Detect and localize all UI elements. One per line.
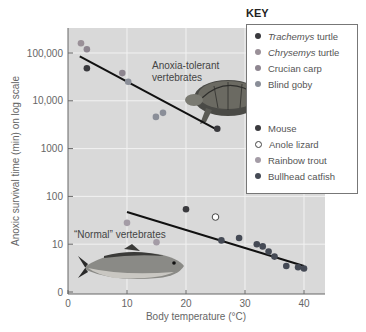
data-point: [153, 114, 160, 121]
x-tick-label: 0: [65, 298, 71, 309]
annotation-anoxia-tolerant-1: Anoxia-tolerant: [152, 60, 219, 71]
y-tick-label: 100,000: [27, 48, 64, 59]
legend-label: Anole lizard: [269, 139, 319, 150]
x-tick-label: 10: [121, 298, 133, 309]
legend-item: Blind goby: [255, 79, 312, 90]
y-axis-label: Anoxic survival time (min) on log scale: [10, 76, 21, 246]
y-tick-label: 10,000: [32, 95, 63, 106]
legend-label: turtle: [316, 47, 340, 58]
data-point: [265, 248, 272, 255]
legend-label-genus: Trachemys: [268, 31, 314, 42]
y-tick-label: 10: [52, 239, 64, 250]
y-tick-label: 100: [46, 191, 63, 202]
legend-label: Bullhead catfish: [268, 171, 335, 182]
data-point: [84, 46, 91, 53]
data-point: [259, 243, 266, 250]
y-tick-label: 1000: [41, 143, 64, 154]
legend-marker-icon: [255, 65, 261, 71]
legend-label: Crucian carp: [268, 63, 322, 74]
legend-label-genus: Chrysemys: [268, 47, 316, 58]
x-tick-label: 30: [239, 298, 251, 309]
data-point: [295, 264, 302, 271]
legend-item: Anole lizard: [255, 139, 319, 150]
data-point: [84, 65, 91, 72]
legend-item: Trachemys turtle: [255, 31, 338, 42]
legend-marker-icon: [255, 49, 261, 55]
legend-marker-icon: [255, 157, 261, 163]
annotation-normal: “Normal” vertebrates: [74, 229, 166, 240]
x-axis-label: Body temperature (°C): [146, 311, 246, 322]
data-point: [271, 253, 278, 260]
data-point: [301, 265, 308, 272]
legend: Trachemys turtleChrysemys turtleCrucian …: [246, 24, 358, 194]
legend-label: turtle: [314, 31, 338, 42]
data-point: [78, 40, 85, 47]
data-point: [283, 263, 290, 270]
annotation-anoxia-tolerant-2: vertebrates: [152, 72, 202, 83]
data-point: [236, 235, 243, 242]
data-point: [253, 241, 260, 248]
legend-marker-icon: [255, 173, 261, 179]
legend-label: Rainbow trout: [268, 155, 327, 166]
data-point: [214, 125, 221, 132]
legend-label: Mouse: [268, 123, 297, 134]
legend-item: Mouse: [255, 123, 297, 134]
y-tick-label: 0: [57, 287, 63, 298]
legend-item: Bullhead catfish: [255, 171, 335, 182]
data-point: [160, 110, 167, 117]
data-point: [119, 70, 126, 77]
data-point: [124, 220, 131, 227]
legend-item: Rainbow trout: [255, 155, 327, 166]
data-point: [183, 206, 190, 213]
legend-marker-icon: [255, 141, 262, 148]
x-tick-label: 20: [180, 298, 192, 309]
legend-label: Blind goby: [268, 79, 312, 90]
x-tick-label: 40: [298, 298, 310, 309]
legend-marker-icon: [255, 81, 261, 87]
legend-item: Crucian carp: [255, 63, 322, 74]
data-point: [218, 237, 225, 244]
legend-item: Chrysemys turtle: [255, 47, 339, 58]
legend-marker-icon: [255, 125, 261, 131]
data-point: [212, 214, 219, 221]
data-point: [125, 78, 132, 85]
legend-title: KEY: [246, 7, 269, 19]
legend-marker-icon: [255, 33, 261, 39]
